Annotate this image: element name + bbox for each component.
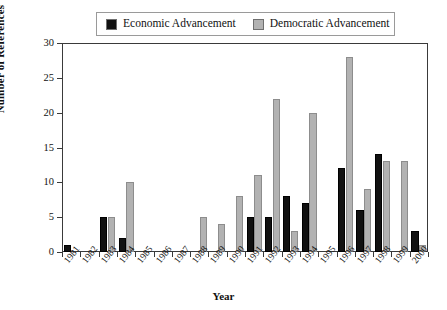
bar-1991-economic-advancement [247, 217, 254, 252]
x-axis-title: Year [0, 290, 447, 302]
bar-1996-democratic-advancement [346, 57, 353, 252]
legend-label-democratic-advancement: Democratic Advancement [270, 18, 390, 30]
legend-swatch-filled-square-icon [253, 19, 264, 30]
bar-1983-economic-advancement [100, 217, 107, 252]
bar-1990-democratic-advancement [236, 196, 243, 252]
legend-label-economic-advancement: Economic Advancement [123, 18, 236, 30]
y-tick-label: 15 [44, 141, 55, 154]
y-tick-label: 10 [44, 175, 55, 188]
legend-swatch-filled-square-icon [106, 19, 117, 30]
bar-1997-economic-advancement [356, 210, 363, 252]
bar-1992-democratic-advancement [273, 99, 280, 252]
y-tick-label: 30 [44, 36, 55, 49]
bar-1994-economic-advancement [302, 203, 309, 252]
y-axis: Number of References 051015202530 [0, 43, 62, 253]
y-tick-label: 20 [44, 106, 55, 119]
bar-chart: Economic Advancement Democratic Advancem… [0, 0, 447, 310]
legend-entry-economic-advancement: Economic Advancement [106, 18, 236, 30]
legend-entry-democratic-advancement: Democratic Advancement [253, 18, 390, 30]
x-tick-mark [428, 252, 429, 257]
y-axis-title: Number of References [0, 0, 6, 139]
bar-1999-democratic-advancement [401, 161, 408, 252]
x-tick-mark [154, 252, 155, 257]
bar-1993-economic-advancement [283, 196, 290, 252]
plot-area [62, 43, 428, 252]
bar-1998-economic-advancement [375, 154, 382, 252]
bar-1998-democratic-advancement [383, 161, 390, 252]
bar-1994-democratic-advancement [309, 113, 316, 252]
y-tick-label: 0 [49, 245, 54, 258]
bar-1991-democratic-advancement [254, 175, 261, 252]
y-tick-label: 5 [49, 210, 54, 223]
bar-1984-democratic-advancement [126, 182, 133, 252]
bar-1996-economic-advancement [338, 168, 345, 252]
bar-1997-democratic-advancement [364, 189, 371, 252]
x-tick-mark [337, 252, 338, 257]
y-tick-label: 25 [44, 71, 55, 84]
chart-legend: Economic Advancement Democratic Advancem… [96, 12, 395, 36]
